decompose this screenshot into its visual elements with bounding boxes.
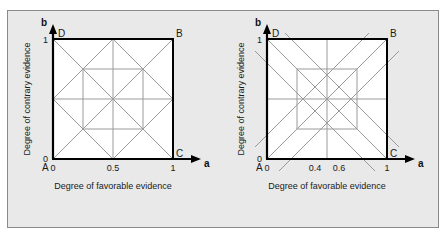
x-tick-0-left: 0 [50, 163, 55, 173]
corner-label-D-left: D [58, 28, 65, 39]
x-tick-1-right: 1 [384, 163, 389, 173]
x-axis-title-right: Degree of favorable evidence [268, 181, 386, 191]
corner-label-C-left: C [176, 148, 183, 159]
x-tick-0-right: 0 [264, 163, 269, 173]
y-tick-1-left: 1 [43, 35, 48, 45]
x-tick-1-left: 1 [170, 163, 175, 173]
x-axis-arrow-left [191, 155, 201, 163]
y-axis-title-right: Degree of contrary evidence [236, 42, 246, 155]
x-tick-05-left: 0.5 [107, 163, 120, 173]
figure-root: b a D B C A 1 0 0 0.5 1 Degree of favora… [0, 0, 448, 239]
lattice-right [267, 39, 387, 159]
y-tick-1-right: 1 [257, 35, 262, 45]
y-axis-title-left: Degree of contrary evidence [22, 42, 32, 155]
lattice-left [53, 39, 173, 159]
y-axis-arrow-right [263, 24, 271, 34]
corner-label-B-right: B [390, 28, 397, 39]
corner-label-D-right: D [272, 28, 279, 39]
corner-label-B-left: B [176, 28, 183, 39]
y-tick-0-right: 0 [257, 154, 262, 164]
y-axis-arrow-left [49, 24, 57, 34]
panel-right: b a D B C A 1 0 0 0.4 0.6 1 Degree of fa… [222, 11, 438, 227]
x-tick-06-right: 0.6 [333, 163, 346, 173]
y-axis-name-left: b [41, 17, 47, 28]
y-axis-name-right: b [255, 17, 261, 28]
x-axis-name-left: a [204, 158, 210, 169]
panel-left: b a D B C A 1 0 0 0.5 1 Degree of favora… [8, 11, 224, 227]
x-axis-arrow-right [405, 155, 415, 163]
x-axis-name-right: a [418, 158, 424, 169]
corner-label-C-right: C [390, 148, 397, 159]
figure-panel: b a D B C A 1 0 0 0.5 1 Degree of favora… [7, 10, 439, 228]
y-tick-0-left: 0 [43, 154, 48, 164]
x-axis-title-left: Degree of favorable evidence [54, 181, 172, 191]
x-tick-04-right: 0.4 [309, 163, 322, 173]
